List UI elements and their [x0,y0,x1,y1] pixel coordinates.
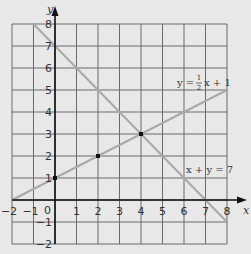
svg-text:4: 4 [138,205,145,218]
svg-text:8: 8 [224,205,231,218]
equation-label-line2: x + y = 7 [186,164,233,175]
svg-text:1: 1 [45,172,52,185]
svg-text:2: 2 [197,84,201,92]
svg-text:6: 6 [181,205,188,218]
svg-text:7: 7 [45,40,52,53]
svg-text:4: 4 [45,106,52,119]
svg-text:5: 5 [159,205,166,218]
svg-text:1: 1 [197,74,201,82]
svg-text:−2: −2 [36,238,52,251]
svg-text:5: 5 [45,84,52,97]
svg-text:x + 1: x + 1 [204,77,231,88]
svg-text:1: 1 [73,205,80,218]
svg-text:−1: −1 [36,216,52,229]
svg-text:7: 7 [202,205,209,218]
svg-text:y =: y = [176,77,194,88]
svg-text:3: 3 [116,205,123,218]
svg-text:2: 2 [45,150,52,163]
svg-text:8: 8 [45,18,52,31]
graph-canvas: −2−1123456780−2−112345678 x y y =12x + 1… [0,0,251,254]
svg-text:3: 3 [45,128,52,141]
svg-text:−2: −2 [1,205,17,218]
y-axis-label: y [46,3,54,16]
x-axis-label: x [243,204,250,217]
svg-text:2: 2 [95,205,102,218]
svg-text:6: 6 [45,62,52,75]
